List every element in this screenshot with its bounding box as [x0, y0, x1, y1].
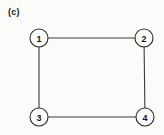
edge-layer	[39, 38, 145, 117]
node-layer: 1234	[30, 29, 154, 126]
graph-node-1[interactable]: 1	[30, 29, 48, 47]
edge-2-4	[144, 47, 145, 108]
node-label-4: 4	[142, 113, 147, 123]
node-label-1: 1	[36, 34, 41, 44]
node-label-2: 2	[141, 34, 146, 44]
graph-node-2[interactable]: 2	[135, 29, 153, 47]
graph-node-4[interactable]: 4	[136, 108, 154, 126]
node-label-3: 3	[36, 113, 41, 123]
graph-node-3[interactable]: 3	[30, 108, 48, 126]
figure-panel: (c) 1234	[0, 0, 164, 135]
graph-diagram: 1234	[0, 0, 164, 135]
